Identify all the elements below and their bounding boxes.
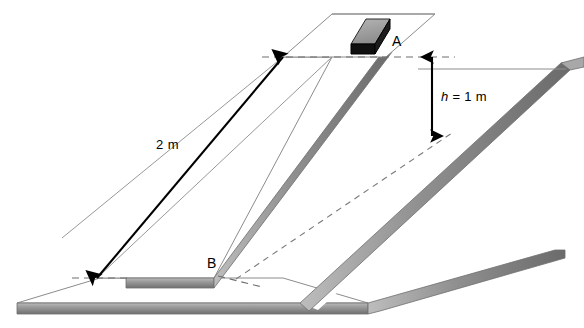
right-ramp-rail [300, 63, 570, 311]
figure-canvas: A B 2 m h = 1 m [0, 0, 584, 328]
left-ramp-bottom-lip [126, 278, 214, 288]
base-plate-right-edge [368, 250, 565, 314]
label-height: h = 1 m [441, 89, 487, 104]
label-height-variable: h [441, 89, 449, 104]
block-front-face [351, 44, 375, 54]
label-slope-length: 2 m [156, 137, 179, 152]
base-plate [17, 250, 584, 314]
left-ramp [62, 50, 392, 288]
label-point-b: B [207, 255, 216, 271]
label-point-a: A [392, 33, 401, 49]
inclined-plane-illustration [0, 0, 584, 328]
label-height-value: = 1 m [449, 89, 487, 104]
